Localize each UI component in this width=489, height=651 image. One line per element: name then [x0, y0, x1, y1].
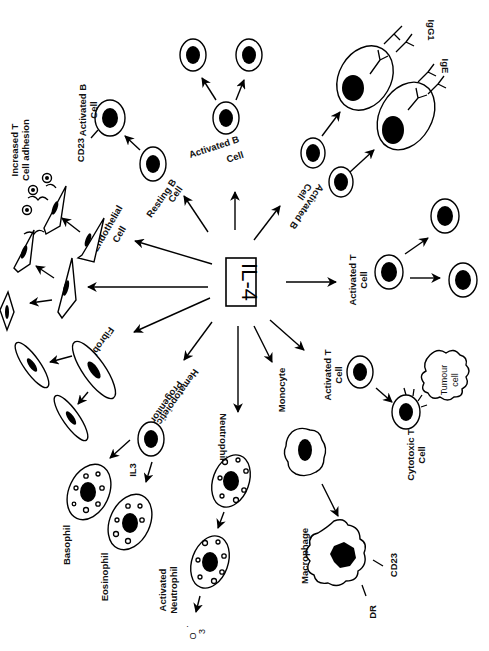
- label-ige: IgE: [440, 59, 451, 74]
- arrow-to-activated-b-right: [254, 206, 280, 240]
- arrow-to-activated-t-bottom: [270, 320, 304, 350]
- label-activated-b-top-cell: Cell: [88, 101, 99, 118]
- label-increased-t: Increased T: [9, 123, 20, 176]
- arrow-to-monocyte: [254, 326, 272, 362]
- monocyte-macrophage-group: Monocyte Macrophage CD23 DR: [276, 368, 399, 619]
- il4-effects-diagram: IL-4 Activated B Cell CD23 Resting B Cel…: [0, 0, 489, 651]
- label-igg1: IgG1: [426, 19, 437, 41]
- label-cytotoxic-t: Cytotoxic T: [405, 429, 416, 481]
- label-cd23-b: CD23: [75, 138, 86, 162]
- cytotoxic-t-group: Tumour cell Activated T Cell Cytotoxic T…: [322, 349, 469, 481]
- svg-text:·: ·: [182, 625, 192, 628]
- il4-label: IL-4: [237, 263, 262, 301]
- label-activated-neutrophil: Activated: [157, 568, 168, 611]
- activated-b-immunoglobulin-group: IgG1 IgE Activated B Cell: [287, 19, 451, 231]
- label-activated-t-bottom-cell: Cell: [333, 366, 344, 383]
- label-activated-t-bottom: Activated T: [322, 349, 333, 400]
- label-cytotoxic-t-cell: Cell: [416, 446, 427, 463]
- arrow-to-fibroblast: [134, 298, 210, 332]
- svg-text:3: 3: [197, 629, 207, 634]
- label-tumour-cell: cell: [450, 373, 460, 387]
- label-macrophage: Macrophage: [299, 528, 310, 584]
- label-cell-adhesion: Cell adhesion: [20, 119, 31, 181]
- resting-b-cell-group: Activated B Cell CD23 Resting B Cell: [75, 84, 185, 220]
- arrow-to-endothelial: [135, 241, 212, 264]
- label-monocyte: Monocyte: [276, 368, 287, 412]
- label-activated-t-top: Activated T: [347, 254, 358, 305]
- label-cd23-macrophage: CD23: [388, 553, 399, 577]
- label-eosinophil: Eosinophil: [99, 553, 110, 602]
- il4-center-node: IL-4: [226, 258, 262, 306]
- label-il3: IL3: [127, 463, 138, 477]
- superoxide-label: O 3 ·: [182, 625, 207, 640]
- label-dr: DR: [367, 605, 378, 619]
- arrow-resting-to-activated-b: [125, 136, 140, 150]
- label-tumour: Tumour: [439, 365, 449, 396]
- activated-b-proliferation-group: Activated B Cell: [180, 39, 262, 165]
- label-activated-b-top: Activated B: [77, 84, 88, 136]
- fibroblast-group: Fibroblast: [10, 325, 123, 445]
- arrow-to-resting-b: [184, 196, 208, 232]
- neutrophil-group: Neutrophil Activated Neutrophil O 3 ·: [157, 413, 257, 639]
- label-neutrophil: Neutrophil: [218, 413, 229, 461]
- label-basophil: Basophil: [61, 525, 72, 565]
- igg1-antibody-icon: [384, 26, 414, 52]
- endothelial-group: Endothelial Cell Increased T Cell adhesi…: [0, 119, 128, 330]
- label-activated-t-top-cell: Cell: [358, 271, 369, 288]
- label-activated-b-mid-cell: Cell: [225, 149, 245, 165]
- label-activated-neutrophil-2: Neutrophil: [168, 566, 179, 614]
- activated-t-proliferation-group: Activated T Cell: [347, 199, 477, 306]
- arrow-to-hemato-progenitor: [184, 322, 212, 360]
